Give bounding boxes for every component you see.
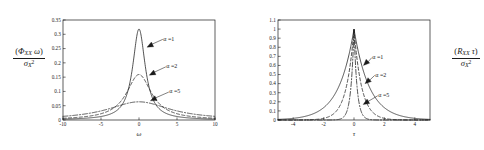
y-tick-label: 0.05 [52,103,61,109]
psd-ylabel-close-paren: ) [40,46,43,56]
annotation-label: α =2 [375,72,386,78]
x-tick-label: 0 [138,121,141,127]
acf-y-axis-label: (RXX τ) σX2 [440,40,484,76]
psd-ylabel-sigma-superscript: 2 [32,59,35,65]
annotation-arrowhead [147,42,154,47]
series-line-solid [278,29,430,119]
x-tick-label: 10 [212,121,218,127]
acf-ylabel-subscript: XX [462,51,469,57]
y-tick-label: 0.1 [269,108,276,114]
series-line-dashdot [278,29,430,120]
y-tick-label: 0.1 [54,88,61,94]
annotation-label: α =5 [169,88,180,94]
x-tick-label: -4 [291,121,296,127]
plot-frame [63,20,215,120]
chart-panel-autocorrelation: 00.10.20.30.40.50.60.70.80.911.1-4-2024τ… [221,0,443,150]
x-tick-label: 4 [414,121,417,127]
x-tick-label: -5 [99,121,104,127]
y-tick-label: 0.3 [54,31,61,37]
annotation-label: α =1 [372,54,383,60]
y-tick-label: 0.7 [269,53,276,59]
acf-ylabel-close-paren: ) [475,46,478,56]
y-tick-label: 0.2 [269,99,276,105]
annotation-label: α =5 [378,92,389,98]
x-tick-label: -2 [321,121,326,127]
series-line-solid [63,29,215,119]
y-tick-label: 0.3 [269,90,276,96]
x-axis-title: τ [353,130,356,138]
x-axis-title: ω [137,130,142,138]
y-tick-label: 0.6 [269,62,276,68]
series-line-dashed [278,29,430,120]
acf-plot-svg: 00.10.20.30.40.50.60.70.80.911.1-4-2024τ… [221,0,443,150]
psd-ylabel-subscript: XX [25,51,32,57]
annotation-arrowhead [363,59,369,65]
y-tick-label: 1 [273,26,276,32]
y-tick-label: 0.5 [269,71,276,77]
annotation-arrowhead [363,99,370,104]
x-tick-label: 5 [176,121,179,127]
annotation-arrowhead [149,70,156,75]
y-tick-label: 0.35 [52,17,61,23]
psd-y-axis-label: (ΦXX ω) σX2 [2,40,56,76]
y-tick-label: 0 [273,117,276,123]
x-tick-label: 0 [353,121,356,127]
y-tick-label: 1.1 [269,17,276,23]
x-tick-label: 2 [383,121,386,127]
chart-panel-power-spectral-density: 00.050.10.150.20.250.30.35-10-50510ωα =1… [0,0,222,150]
annotation-label: α =1 [163,36,174,42]
series-line-dashed [63,75,215,119]
acf-ylabel-sigma-superscript: 2 [469,59,472,65]
y-tick-label: 0.4 [269,80,276,86]
y-tick-label: 0.8 [269,44,276,50]
x-tick-label: -10 [60,121,67,127]
annotation-label: α =2 [166,63,177,69]
y-tick-label: 0.9 [269,35,276,41]
annotation-leader-line [154,92,169,99]
series-line-dashdot [63,102,215,117]
